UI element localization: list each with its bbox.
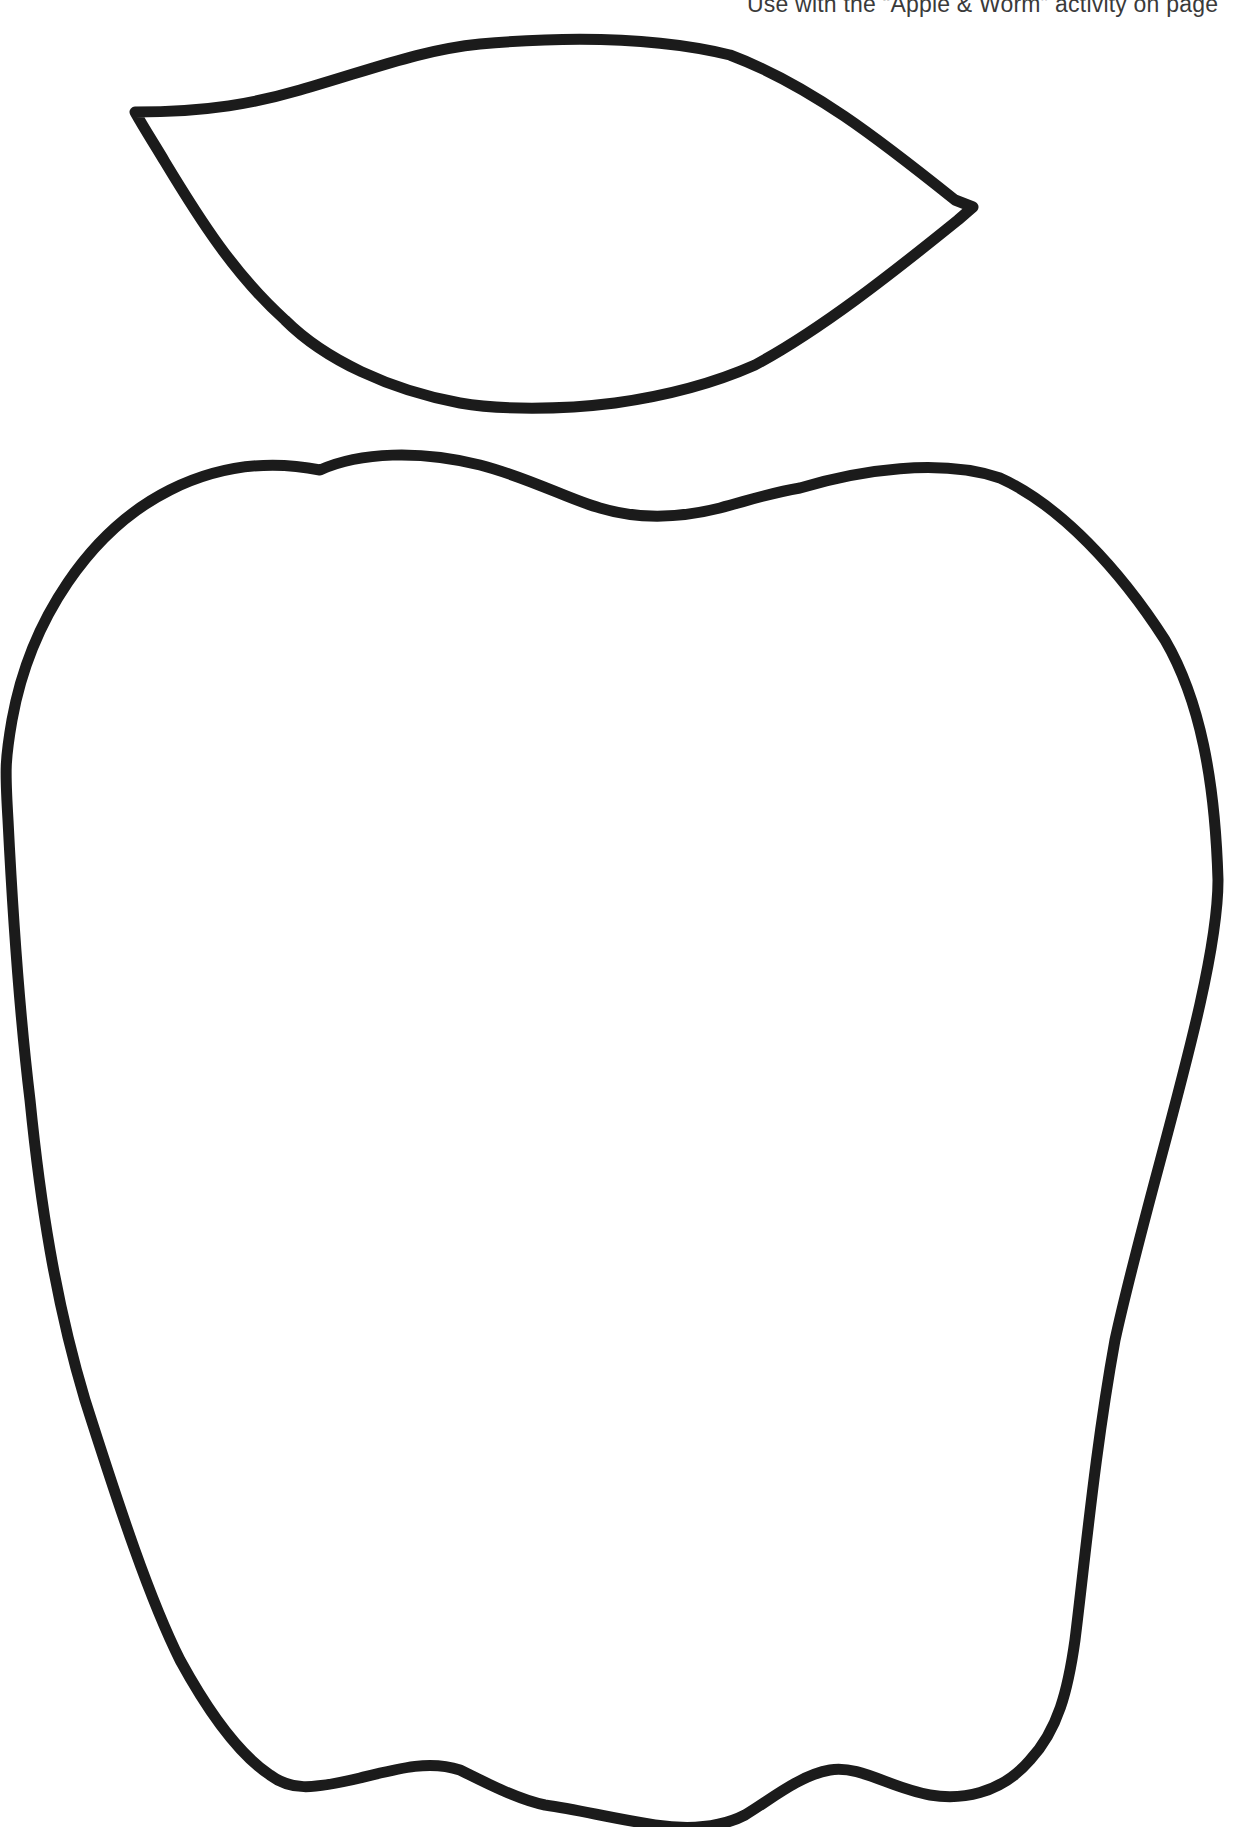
apple-outline	[6, 455, 1218, 1827]
leaf-outline	[135, 39, 973, 408]
template-artwork	[0, 0, 1254, 1827]
worksheet-page: Use with the “Apple & Worm” activity on …	[0, 0, 1254, 1827]
